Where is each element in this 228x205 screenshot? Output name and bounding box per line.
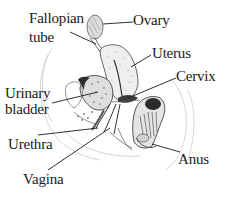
label-urethra: Urethra — [8, 136, 52, 152]
label-uterus: Uterus — [152, 45, 191, 61]
leader-line-anus — [152, 144, 180, 152]
label-urinary-bladder-line1: Urinary — [5, 85, 50, 101]
rectum-anus-shape — [133, 96, 165, 148]
label-fallopian-tube-line1: Fallopian — [29, 10, 84, 26]
label-anus: Anus — [178, 151, 209, 167]
label-fallopian-tube-line2: tube — [29, 29, 54, 45]
label-cervix: Cervix — [176, 68, 216, 84]
perineum-shape — [110, 128, 132, 150]
label-vagina: Vagina — [23, 171, 63, 187]
label-urinary-bladder-line2: bladder — [5, 101, 49, 117]
leader-line-uterus — [131, 55, 151, 67]
label-ovary: Ovary — [133, 12, 170, 28]
ovary-shape — [87, 15, 103, 39]
leader-line-urethra — [38, 128, 98, 135]
anatomy-diagram: Fallopian tube Ovary Uterus Cervix Urina… — [0, 0, 228, 205]
leader-line-vagina — [48, 128, 110, 170]
leader-line-ovary — [103, 22, 133, 24]
